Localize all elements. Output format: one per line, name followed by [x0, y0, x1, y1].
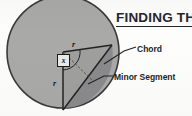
angle-label-box: x: [57, 54, 70, 67]
radius-top-label: r: [72, 40, 75, 49]
minor-segment-label: Minor Segment: [114, 72, 175, 82]
figure-title-block: FINDING THE: [116, 8, 192, 27]
chord-label: Chord: [137, 44, 162, 54]
geometry-diagram-page: FINDING THE Chord Minor Segment r r x: [0, 0, 192, 116]
radius-bottom-label: r: [53, 79, 56, 88]
angle-label: x: [62, 57, 66, 65]
page-title: FINDING THE: [116, 11, 192, 27]
